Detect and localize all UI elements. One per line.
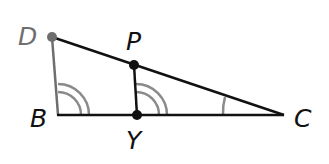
label-y: Y [126, 126, 143, 155]
triangle-diagram: D P B Y C [0, 0, 329, 164]
segment-db [52, 37, 58, 115]
angle-mark-c [223, 97, 225, 115]
label-b: B [30, 104, 47, 133]
point-d [47, 32, 57, 42]
label-d: D [18, 22, 37, 51]
angle-mark-y [136, 84, 167, 115]
label-p: P [126, 27, 142, 56]
angle-mark-b [58, 84, 89, 115]
point-p [129, 60, 139, 70]
point-y [132, 110, 142, 120]
label-c: C [294, 104, 312, 133]
segment-py [134, 65, 137, 115]
